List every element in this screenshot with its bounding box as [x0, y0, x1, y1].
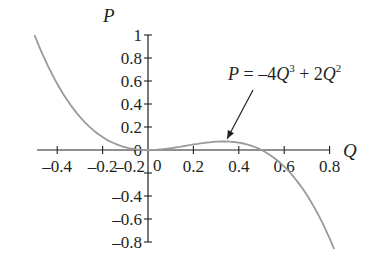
origin-label: 0 [153, 156, 162, 175]
y-tick-label: 0.2 [121, 118, 142, 137]
y-tick-label: –0.8 [111, 233, 142, 252]
equation-annotation: P = –4Q3 + 2Q2 [227, 62, 341, 84]
y-tick-label: –0.6 [111, 210, 142, 229]
x-axis-title: Q [343, 140, 357, 161]
annot-coef1: –4 [257, 64, 276, 84]
x-tick-label: 0.4 [228, 157, 250, 176]
y-tick-label: 0.6 [121, 72, 142, 91]
annotation-arrow [227, 90, 253, 139]
annot-plus2: + 2 [295, 64, 323, 84]
y-tick-label: –0.4 [111, 187, 142, 206]
annot-Q1: Q [276, 64, 289, 84]
annot-P: P [227, 64, 239, 84]
x-tick-label: –0.4 [41, 157, 72, 176]
annot-exp2: 2 [336, 62, 342, 74]
annot-Q2: Q [323, 64, 336, 84]
chart: –0.4–0.20.20.40.60.810.80.60.40.20–0.4–0… [0, 0, 374, 264]
y-tick-label: 1 [134, 26, 143, 45]
y-tick-label: 0.8 [121, 49, 142, 68]
y-tick-label: –0.2 [114, 157, 145, 176]
annot-eq: = [239, 64, 258, 84]
x-tick-label: –0.2 [87, 157, 118, 176]
y-axis-title: P [102, 5, 115, 26]
tick-labels: –0.4–0.20.20.40.60.810.80.60.40.20–0.4–0… [41, 26, 340, 252]
x-tick-label: 0.8 [319, 157, 340, 176]
y-tick-label: 0.4 [121, 95, 143, 114]
x-tick-label: 0.2 [183, 157, 204, 176]
